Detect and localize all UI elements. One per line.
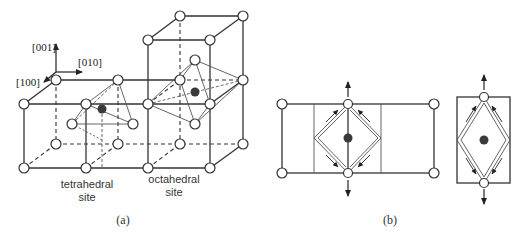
right-interstitial-atom bbox=[480, 136, 489, 145]
octahedral-site-label-2: site bbox=[165, 186, 182, 198]
tetrahedral-site-polyhedron bbox=[72, 80, 133, 168]
lattice-atoms bbox=[19, 11, 248, 173]
panel-b-left-schematic bbox=[277, 82, 439, 196]
octahedral-interstitial-atom bbox=[191, 88, 200, 97]
panel-a-caption: (a) bbox=[116, 213, 129, 227]
crystal-interstitial-sites-figure: [001] [010] [100] bbox=[0, 0, 523, 239]
axis-001-label: [001] bbox=[32, 41, 56, 53]
axis-100-label: [100] bbox=[16, 76, 40, 88]
left-interstitial-atom bbox=[344, 134, 353, 143]
octahedral-site-label-1: octahedral bbox=[148, 173, 199, 185]
panel-b-right-schematic bbox=[457, 75, 510, 204]
panel-b-distortion: (b) bbox=[277, 75, 510, 227]
tetrahedral-site-label-1: tetrahedral bbox=[61, 178, 114, 190]
tetrahedral-interstitial-atom bbox=[98, 105, 107, 114]
panel-b-caption: (b) bbox=[383, 213, 397, 227]
tetrahedral-site-label-2: site bbox=[78, 191, 95, 203]
panel-a-bcc-lattice: [001] [010] [100] bbox=[16, 11, 248, 227]
axis-010-label: [010] bbox=[78, 56, 102, 68]
